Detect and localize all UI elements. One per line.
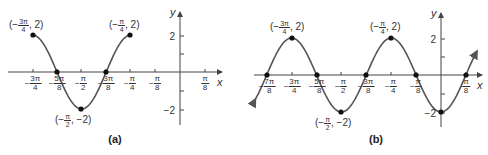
y-ticks	[441, 39, 445, 113]
point-label-min: (−π2, −2)	[315, 116, 351, 131]
graph-panel-b: y x 2 −2 −7π8 −3π4 −5π8 −π2 −3π8 −π4 −π8…	[244, 0, 488, 155]
x-tick-label: −π2	[75, 75, 87, 92]
x-tick-label: −5π8	[49, 75, 66, 92]
x-tick-label: π8	[462, 78, 470, 95]
point-label-max-left: (−3π4, 2)	[270, 20, 304, 35]
x-tick-label: −3π8	[358, 78, 375, 95]
point-label-min: (−π2, −2)	[55, 113, 91, 128]
point-label-max-right: (−π4, 2)	[370, 20, 400, 35]
y-tick-label-2: 2	[430, 34, 436, 45]
x-tick-label: −5π8	[309, 78, 326, 95]
x-tick-label: π8	[201, 75, 209, 92]
point-label-max-right: (−π4, 2)	[109, 18, 139, 33]
caption-b: (b)	[369, 133, 383, 145]
y-axis-label: y	[431, 7, 437, 19]
y-tick-label-neg2: −2	[164, 105, 175, 116]
x-axis-label: x	[477, 79, 483, 91]
x-tick-label: −7π8	[259, 78, 276, 95]
x-tick-label: −3π4	[284, 78, 301, 95]
x-tick-label: −π8	[149, 75, 161, 92]
x-tick-label: −π4	[385, 78, 397, 95]
point-label-max-left: (−3π4, 2)	[9, 18, 43, 33]
graph-panel-a: y x 2 −2 −3π4 −5π8 −π2 −3π8 −π4 −π8 π8 (…	[0, 0, 244, 155]
x-tick-label: −π4	[124, 75, 136, 92]
caption-a: (a)	[108, 133, 121, 145]
y-tick-label-neg2: −2	[425, 108, 436, 119]
x-axis-label: x	[217, 76, 223, 88]
x-tick-label: −3π8	[98, 75, 115, 92]
y-axis-label: y	[170, 6, 176, 18]
x-tick-label: −π8	[410, 78, 422, 95]
x-tick-label: −3π4	[25, 75, 42, 92]
y-ticks	[180, 36, 184, 110]
y-tick-label-2: 2	[169, 31, 175, 42]
x-tick-label: −π2	[335, 78, 347, 95]
